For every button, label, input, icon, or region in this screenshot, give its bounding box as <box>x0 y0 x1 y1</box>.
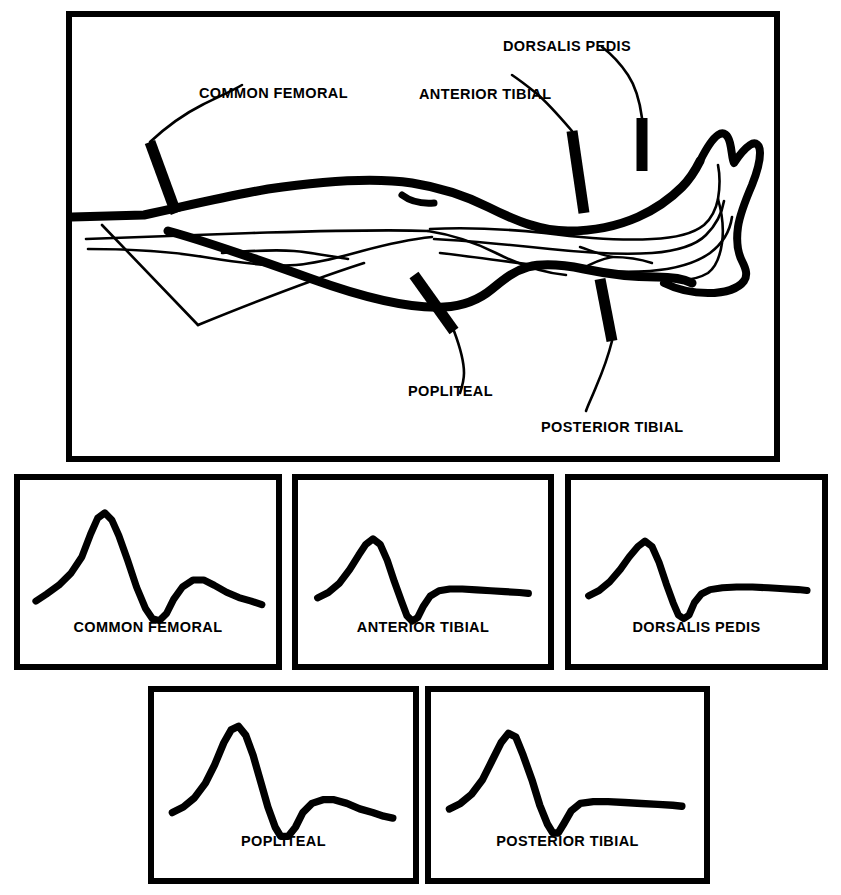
posterior-tibial-panel: POSTERIOR TIBIAL <box>425 686 710 884</box>
posterior-tibial-waveform <box>431 692 704 878</box>
waveform-trace <box>36 513 262 621</box>
waveform-trace <box>449 733 681 833</box>
probe-marker-posterior-tibial <box>600 279 612 341</box>
leader-posterior-tibial <box>586 341 612 411</box>
waveform-trace <box>172 726 392 836</box>
leader-dorsalis-pedis <box>602 47 642 118</box>
popliteal-panel: POPLITEAL <box>148 686 419 884</box>
probe-marker-common-femoral <box>150 142 176 213</box>
label-anterior-tibial: ANTERIOR TIBIAL <box>419 87 551 102</box>
label-popliteal: POPLITEAL <box>408 384 493 399</box>
femoral-artery-line-1 <box>86 230 428 239</box>
dorsalis-pedis-panel-label: DORSALIS PEDIS <box>571 620 822 635</box>
leader-anterior-tibial <box>512 75 572 131</box>
anatomy-panel: COMMON FEMORAL ANTERIOR TIBIAL DORSALIS … <box>66 11 780 462</box>
posterior-tibial-panel-label: POSTERIOR TIBIAL <box>431 834 704 849</box>
label-common-femoral: COMMON FEMORAL <box>199 86 348 101</box>
waveform-trace <box>318 539 529 621</box>
probe-marker-anterior-tibial <box>572 131 584 213</box>
anterior-tibial-panel-label: ANTERIOR TIBIAL <box>298 620 548 635</box>
dorsalis-pedis-waveform <box>571 480 822 664</box>
common-femoral-waveform <box>20 480 276 664</box>
label-posterior-tibial: POSTERIOR TIBIAL <box>541 420 684 435</box>
popliteal-panel-label: POPLITEAL <box>154 834 413 849</box>
common-femoral-panel: COMMON FEMORAL <box>14 474 282 670</box>
tibial-bifurcation-mark-2 <box>612 257 652 263</box>
dorsalis-pedis-panel: DORSALIS PEDIS <box>565 474 828 670</box>
posterior-tibial-artery-line <box>440 217 732 272</box>
anterior-tibial-waveform <box>298 480 548 664</box>
label-dorsalis-pedis: DORSALIS PEDIS <box>503 39 631 54</box>
figure-stage: COMMON FEMORAL ANTERIOR TIBIAL DORSALIS … <box>0 0 841 895</box>
patella-mark <box>402 195 434 203</box>
popliteal-waveform <box>154 692 413 878</box>
anterior-tibial-panel: ANTERIOR TIBIAL <box>292 474 554 670</box>
common-femoral-panel-label: COMMON FEMORAL <box>20 620 276 635</box>
waveform-trace <box>589 541 807 619</box>
